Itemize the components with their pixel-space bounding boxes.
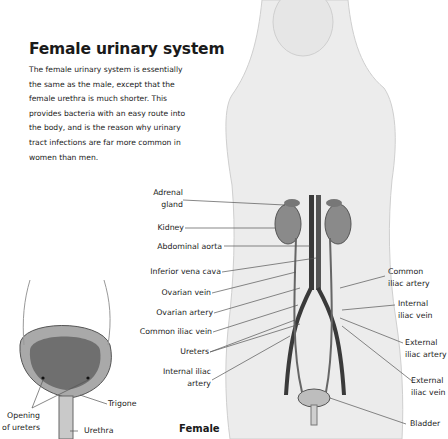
urethra-main (311, 405, 317, 425)
label-common-iliac-artery: Common iliac artery (388, 266, 430, 290)
adrenal-left (284, 199, 300, 207)
intro-text: The female urinary system is essentially… (29, 63, 197, 165)
label-urethra: Urethra (84, 425, 114, 437)
bladder (298, 389, 330, 407)
label-internal-iliac-vein: Internal iliac vein (398, 298, 433, 322)
label-abdominal-aorta: Abdominal aorta (150, 241, 222, 253)
label-common-iliac-vein: Common iliac vein (130, 326, 212, 338)
aorta (309, 195, 314, 290)
torso-outline (226, 0, 403, 439)
label-adrenal-gland: Adrenal gland (138, 187, 183, 211)
adrenal-right (326, 199, 342, 207)
label-opening-of-ureters: Opening of ureters (0, 410, 40, 434)
vena-cava (316, 195, 321, 290)
label-internal-iliac-artery: Internal iliac artery (150, 366, 211, 390)
label-trigone: Trigone (108, 398, 136, 410)
label-ovarian-vein: Ovarian vein (150, 287, 211, 299)
page-title: Female urinary system (29, 40, 224, 58)
label-inferior-vena-cava: Inferior vena cava (140, 266, 221, 278)
label-ovarian-artery: Ovarian artery (150, 307, 213, 319)
kidney-left (275, 204, 301, 244)
label-kidney: Kidney (140, 222, 184, 234)
label-external-iliac-artery: External iliac artery (405, 337, 447, 361)
kidney-right (325, 204, 351, 244)
label-bladder: Bladder (410, 418, 440, 430)
figure-caption: Female (179, 423, 220, 434)
label-external-iliac-vein: External iliac vein (411, 375, 446, 399)
label-ureters: Ureters (160, 346, 209, 358)
